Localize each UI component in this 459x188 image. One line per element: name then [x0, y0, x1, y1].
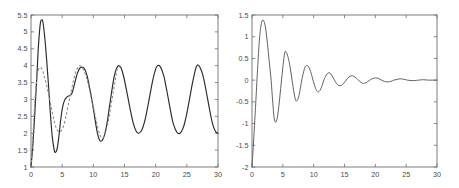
y-tick-label: -0.5 [236, 97, 248, 106]
plot-frame [252, 15, 437, 167]
y-tick-label: 5.5 [18, 11, 28, 20]
y-tick-label: 4.5 [18, 44, 28, 53]
x-tick-label: 30 [433, 170, 441, 179]
y-tick-label: 1.5 [18, 146, 28, 155]
y-tick-label: 1 [245, 32, 249, 41]
x-tick-label: 5 [60, 170, 64, 179]
figure-root: 05101520253011.522.533.544.555.5 0510152… [0, 0, 459, 188]
x-tick-label: 0 [250, 170, 254, 179]
x-tick-label: 30 [214, 170, 222, 179]
y-tick-label: -1.5 [236, 141, 248, 150]
x-tick-label: 15 [121, 170, 129, 179]
y-tick-label: 5 [24, 27, 28, 36]
x-tick-label: 5 [281, 170, 285, 179]
x-tick-label: 20 [371, 170, 379, 179]
series-solid-curve [31, 20, 218, 167]
series-dashed-curve [31, 66, 121, 167]
x-tick-label: 20 [152, 170, 160, 179]
series-damped-oscillation [252, 20, 437, 167]
x-tick-label: 25 [183, 170, 191, 179]
x-tick-label: 15 [341, 170, 349, 179]
left-panel-svg: 05101520253011.522.533.544.555.5 [0, 0, 229, 188]
y-tick-label: 3.5 [18, 78, 28, 87]
y-tick-label: 1.5 [239, 11, 249, 20]
x-tick-label: 10 [89, 170, 97, 179]
y-tick-label: 0 [245, 76, 249, 85]
right-panel-svg: 051015202530-2-1.5-1-0.500.511.5 [229, 0, 459, 188]
y-tick-label: -2 [242, 163, 248, 172]
y-tick-label: 0.5 [239, 54, 249, 63]
x-tick-label: 25 [402, 170, 410, 179]
y-tick-label: 2 [24, 129, 28, 138]
right-panel: 051015202530-2-1.5-1-0.500.511.5 [229, 0, 459, 188]
y-tick-label: 4 [24, 61, 28, 70]
plot-frame [31, 15, 218, 167]
y-tick-label: 3 [24, 95, 28, 104]
y-tick-label: -1 [242, 119, 248, 128]
x-tick-label: 0 [29, 170, 33, 179]
x-tick-label: 10 [310, 170, 318, 179]
y-tick-label: 2.5 [18, 112, 28, 121]
left-panel: 05101520253011.522.533.544.555.5 [0, 0, 229, 188]
y-tick-label: 1 [24, 163, 28, 172]
